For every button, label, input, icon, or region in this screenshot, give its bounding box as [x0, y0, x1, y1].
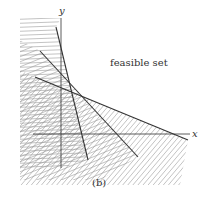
hatch-line [0, 0, 207, 90]
hatch-line [0, 52, 207, 60]
hatch-line [0, 0, 207, 10]
hatch-line [0, 0, 207, 45]
hatch-line [0, 36, 207, 44]
hatch-line [0, 0, 207, 5]
hatch-line [0, 164, 207, 172]
hatch-constraint-1 [0, 0, 207, 198]
hatch-line [0, 0, 207, 50]
hatch-line [0, 28, 207, 36]
y-axis-label: y [58, 5, 65, 16]
hatch-line [0, 0, 207, 65]
figure: y x feasible set (b) [0, 0, 207, 198]
hatch-line [0, 80, 207, 88]
hatch-line [0, 84, 207, 92]
hatch-line [0, 44, 207, 52]
hatch-line [0, 5, 207, 95]
hatch-line [0, 64, 207, 72]
hatch-line [0, 0, 207, 30]
constraint-line-3 [35, 77, 188, 140]
hatch-line [0, 45, 207, 135]
figure-caption: (b) [92, 177, 106, 188]
hatch-line [0, 188, 207, 196]
hatch-line [0, 0, 207, 8]
hatch-line [0, 0, 207, 80]
hatch-line [0, 4, 207, 12]
hatch-line [0, 16, 207, 24]
hatch-line [0, 152, 207, 160]
hatch-line [0, 0, 207, 84]
hatch-line [0, 24, 207, 32]
hatch-line [0, 0, 207, 40]
diagram-canvas: y x feasible set (b) [0, 0, 207, 198]
hatch-line [0, 0, 207, 35]
hatch-line [0, 0, 207, 12]
hatch-line [0, 0, 207, 96]
feasible-set-label: feasible set [110, 57, 168, 68]
hatch-line [0, 0, 207, 25]
x-axis-label: x [192, 128, 198, 139]
hatch-line [0, 20, 207, 28]
hatch-line [0, 0, 207, 6]
hatch-line [0, 92, 207, 100]
hatch-line [0, 40, 207, 130]
hatch-line [0, 8, 207, 16]
hatch-line [0, 196, 207, 198]
hatch-line [0, 40, 207, 48]
hatch-line [0, 20, 207, 110]
hatch-line [0, 0, 207, 75]
hatch-line [0, 0, 207, 66]
hatch-line [0, 0, 207, 42]
hatch-line [0, 32, 207, 40]
hatch-line [0, 72, 207, 80]
hatch-line [0, 0, 207, 15]
hatch-line [0, 195, 207, 198]
hatch-line [0, 60, 207, 68]
hatch-line [0, 0, 207, 48]
hatch-line [0, 0, 207, 24]
hatch-line [0, 140, 207, 198]
hatch-line [0, 12, 207, 20]
hatch-line [0, 0, 207, 18]
hatch-line [0, 0, 207, 30]
hatch-line [0, 15, 207, 105]
hatch-line [0, 0, 207, 192]
hatch-line [0, 0, 207, 108]
hatch-line [0, 135, 207, 198]
hatch-line [0, 192, 207, 198]
hatch-line [0, 0, 207, 4]
hatch-line [0, 140, 207, 148]
hatch-line [0, 190, 207, 198]
hatch-line [0, 0, 207, 85]
hatch-line [0, 0, 207, 72]
hatch-line [0, 0, 207, 90]
hatch-line [0, 0, 207, 20]
